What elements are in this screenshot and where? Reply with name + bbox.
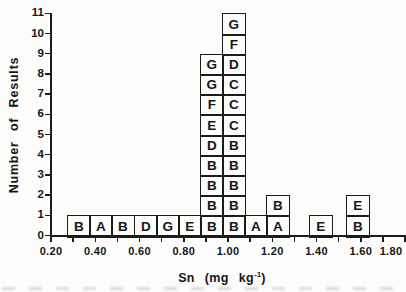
x-tick-mark <box>316 237 318 242</box>
result-box: C <box>222 74 246 96</box>
y-tick-label: 5 <box>18 128 44 140</box>
result-box: B <box>222 135 246 157</box>
y-tick-label: 6 <box>18 107 44 119</box>
result-box: E <box>178 215 202 238</box>
y-tick-mark <box>45 93 50 95</box>
y-tick-mark <box>45 174 50 176</box>
y-tick-mark <box>45 134 50 136</box>
y-tick-mark <box>45 73 50 75</box>
y-tick-label: 4 <box>18 148 44 160</box>
result-box: E <box>200 114 224 137</box>
x-tick-mark <box>72 237 74 242</box>
result-box: B <box>346 215 370 238</box>
result-box: F <box>222 34 246 56</box>
x-tick-mark <box>338 237 340 242</box>
x-tick-mark <box>382 237 384 242</box>
y-tick-label: 0 <box>18 229 44 241</box>
y-axis-line <box>50 13 52 237</box>
result-box: E <box>346 195 370 217</box>
result-box: C <box>222 114 246 137</box>
result-box: F <box>200 94 224 116</box>
result-box: B <box>200 155 224 177</box>
scan-artifact-caption-edge <box>2 287 404 290</box>
y-tick-label: 9 <box>18 47 44 59</box>
x-tick-mark <box>205 237 207 242</box>
result-box: G <box>200 54 224 76</box>
x-tick-mark <box>272 237 274 242</box>
result-box: B <box>200 195 224 217</box>
result-box: G <box>156 215 180 238</box>
result-box: B <box>222 195 246 217</box>
x-tick-label: 0.40 <box>84 245 107 257</box>
result-box: B <box>67 215 91 238</box>
result-box: A <box>89 215 113 238</box>
x-axis-title-close: ) <box>261 271 266 285</box>
x-tick-label: 1.80 <box>380 245 403 257</box>
x-tick-mark <box>227 237 229 242</box>
result-box: B <box>222 175 246 197</box>
y-tick-label: 11 <box>18 6 44 18</box>
result-box: B <box>222 155 246 177</box>
x-tick-mark <box>249 237 251 242</box>
result-box: B <box>266 195 290 217</box>
y-tick-label: 2 <box>18 188 44 200</box>
result-box: D <box>200 135 224 157</box>
y-tick-mark <box>45 114 50 116</box>
result-box: B <box>222 215 246 238</box>
histogram-figure: Number of Results 0.200.400.600.801.001.… <box>0 0 406 292</box>
result-box: C <box>222 94 246 116</box>
x-tick-label: 0.20 <box>40 245 63 257</box>
x-tick-label: 0.60 <box>128 245 151 257</box>
y-tick-mark <box>45 13 50 15</box>
result-box: E <box>309 215 333 238</box>
plot-area: 0.200.400.600.801.001.201.401.601.800123… <box>0 0 406 292</box>
result-box: D <box>222 54 246 76</box>
x-tick-mark <box>294 237 296 242</box>
x-tick-mark <box>50 237 52 242</box>
y-tick-label: 8 <box>18 67 44 79</box>
x-tick-mark <box>360 237 362 242</box>
x-tick-label: 1.40 <box>305 245 328 257</box>
y-tick-label: 10 <box>18 27 44 39</box>
y-tick-label: 1 <box>18 208 44 220</box>
result-box: B <box>200 215 224 238</box>
result-box: A <box>266 215 290 238</box>
result-box: B <box>200 175 224 197</box>
result-box: D <box>134 215 158 238</box>
y-tick-mark <box>45 33 50 35</box>
y-tick-mark <box>45 215 50 217</box>
x-tick-label: 1.20 <box>261 245 284 257</box>
result-box: B <box>111 215 135 238</box>
x-tick-label: 1.60 <box>349 245 372 257</box>
y-tick-mark <box>45 235 50 237</box>
x-tick-mark <box>117 237 119 242</box>
result-box: G <box>222 13 246 36</box>
y-tick-mark <box>45 154 50 156</box>
x-tick-label: 1.00 <box>217 245 240 257</box>
result-box: G <box>200 74 224 96</box>
x-tick-mark <box>139 237 141 242</box>
x-tick-mark <box>161 237 163 242</box>
y-tick-mark <box>45 53 50 55</box>
x-axis-title-text: Sn (mg kg <box>178 271 254 285</box>
y-tick-label: 7 <box>18 87 44 99</box>
x-tick-label: 0.80 <box>172 245 195 257</box>
y-tick-mark <box>45 194 50 196</box>
y-tick-label: 3 <box>18 168 44 180</box>
x-tick-mark <box>183 237 185 242</box>
x-axis-title: Sn (mg kg-1) <box>178 270 266 285</box>
x-tick-mark <box>95 237 97 242</box>
result-box: A <box>244 215 268 238</box>
